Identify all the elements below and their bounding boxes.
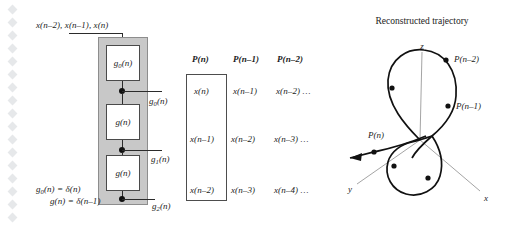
diamond-icon	[8, 148, 18, 158]
matrix-cell-r2c1: x(n–3)	[231, 186, 255, 195]
diamond-icon	[8, 109, 18, 119]
diamond-icon	[8, 161, 18, 171]
matrix-cell-r0c2: x(n–2) …	[276, 87, 311, 96]
wire-tap1-to-g-bottom	[122, 152, 123, 155]
matrix-header-0: P(n)	[192, 55, 209, 64]
matrix-cell-r2c2: x(n–4) …	[274, 186, 309, 195]
axis-label-y: y	[347, 184, 352, 194]
sample-point	[391, 163, 396, 168]
diamond-icon	[8, 44, 18, 54]
tap-label-g0: g0(n)	[149, 97, 168, 107]
block-g-bottom: g(n)	[106, 155, 140, 191]
matrix-header-1: P(n–1)	[233, 55, 259, 64]
wire-tap0-to-g-middle	[122, 93, 123, 104]
matrix-cell-r1c2: x(n–3) …	[274, 135, 309, 144]
sample-point	[425, 175, 430, 180]
point-label-p-n-minus-2: P(n–2)	[453, 54, 479, 64]
sample-point	[445, 103, 450, 108]
diamond-icon	[8, 18, 18, 28]
diamond-icon	[8, 57, 18, 67]
decorative-diamond-rail	[0, 0, 26, 227]
equation-g-definition: g(n) = δ(n–1)	[50, 197, 101, 207]
axis-line-x	[420, 140, 480, 191]
matrix-cell-r0c0: x(n)	[194, 87, 209, 96]
diamond-icon	[8, 174, 18, 184]
matrix-cell-r0c1: x(n–1)	[233, 87, 257, 96]
sample-point	[443, 57, 448, 62]
tap-lead-g1	[122, 150, 162, 151]
axis-label-x: x	[483, 193, 488, 203]
point-label-p-n-minus-1: P(n–1)	[455, 101, 481, 111]
block-g-bottom-label: g(n)	[116, 168, 131, 179]
equation-g0-definition: g0(n) = δ(n)	[36, 185, 81, 195]
input-lead-horizontal	[69, 33, 123, 34]
point-label-p-n: P(n)	[367, 130, 384, 140]
diamond-icon	[8, 83, 18, 93]
diamond-icon	[8, 96, 18, 106]
diamond-icon	[8, 213, 18, 223]
figure-canvas: x(n–2), x(n–1), x(n) g0(n) g(n) g(n) g0(…	[0, 0, 509, 227]
block-g-middle-label: g(n)	[116, 117, 131, 128]
diamond-icon	[8, 200, 18, 210]
matrix-cell-r2c0: x(n–2)	[190, 186, 214, 195]
matrix-header-2: P(n–2)	[277, 55, 303, 64]
diamond-icon	[8, 70, 18, 80]
diamond-icon	[8, 187, 18, 197]
matrix-cell-r1c1: x(n–2)	[231, 135, 255, 144]
trajectory-title: Reconstructed trajectory	[375, 16, 468, 26]
block-g0-label: g0(n)	[114, 58, 132, 69]
block-g0: g0(n)	[106, 45, 140, 81]
trajectory-panel: Reconstructed trajectory z y x	[336, 8, 509, 223]
axis-label-z: z	[419, 41, 424, 51]
diamond-icon	[8, 135, 18, 145]
trajectory-svg: Reconstructed trajectory z y x	[336, 8, 509, 223]
tap-label-g2: g2(n)	[152, 202, 171, 212]
axis-line-z	[420, 52, 422, 140]
diamond-icon	[8, 31, 18, 41]
diamond-icon	[8, 5, 18, 15]
tap-label-g1: g1(n)	[151, 155, 170, 165]
sample-point	[389, 85, 394, 90]
diamond-icon	[8, 122, 18, 132]
block-g-middle: g(n)	[106, 104, 140, 140]
sample-point	[371, 149, 376, 154]
input-signal-label: x(n–2), x(n–1), x(n)	[36, 21, 108, 30]
matrix-cell-r1c0: x(n–1)	[190, 135, 214, 144]
tap-lead-g2	[122, 199, 155, 200]
tap-lead-g0	[122, 91, 162, 92]
